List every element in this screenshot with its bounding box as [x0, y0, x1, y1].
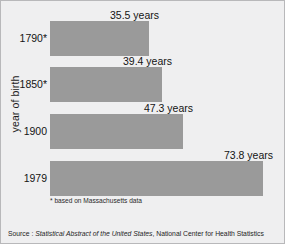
bar-value-label: 35.5 years [50, 9, 159, 21]
source-prefix: Source : [8, 230, 33, 237]
bar-value-label: 73.8 years [50, 149, 273, 161]
bar[interactable] [50, 114, 183, 149]
bar[interactable] [50, 67, 162, 102]
bar[interactable] [50, 161, 263, 196]
footnote-massachusetts: * based on Massachusetts data [50, 197, 142, 204]
source-line: Source : Statistical Abstract of the Uni… [8, 230, 264, 237]
plot-area: 35.5 years 1790* 39.4 years 1850* 47.3 y… [1, 1, 285, 206]
category-label: 1790* [15, 32, 47, 44]
bar[interactable] [50, 21, 149, 56]
bar-value-label: 47.3 years [50, 102, 193, 114]
category-label: 1900 [15, 125, 47, 137]
bar-value-label: 39.4 years [50, 55, 172, 67]
bar-chart-figure: year of birth 35.5 years 1790* 39.4 year… [0, 0, 285, 244]
source-suffix: , National Center for Health Statistics [152, 230, 263, 237]
category-label: 1979 [15, 172, 47, 184]
source-title: Statistical Abstract of the United State… [35, 230, 152, 237]
category-label: 1850* [15, 78, 47, 90]
